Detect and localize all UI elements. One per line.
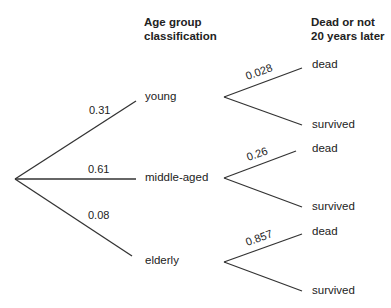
branch-elderly-survived [224, 262, 302, 291]
outcome-young-survived: survived [312, 118, 355, 130]
node-middle-aged: middle-aged [145, 171, 208, 183]
prob-middle-aged: 0.61 [88, 163, 109, 175]
branch-middle-survived [224, 178, 302, 207]
outcome-middle-dead: dead [312, 142, 338, 154]
node-elderly: elderly [145, 254, 179, 266]
branch-young [15, 101, 136, 179]
tree-lines [0, 0, 391, 308]
branch-elderly [15, 179, 132, 256]
prob-young: 0.31 [89, 104, 110, 116]
outcome-elderly-dead: dead [312, 225, 338, 237]
node-young: young [145, 90, 176, 102]
outcome-elderly-survived: survived [312, 284, 355, 296]
outcome-young-dead: dead [312, 58, 338, 70]
branch-young-survived [224, 97, 302, 125]
prob-elderly: 0.08 [88, 209, 109, 221]
outcome-middle-survived: survived [312, 200, 355, 212]
age-group-header: Age group classification [144, 15, 217, 43]
outcome-header: Dead or not 20 years later [311, 15, 385, 43]
